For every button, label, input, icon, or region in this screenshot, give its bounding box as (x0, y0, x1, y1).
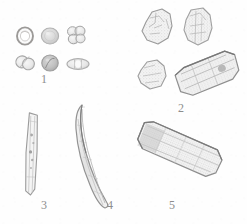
panel-2: 2 (128, 0, 247, 120)
panel-5: 5 (110, 110, 247, 224)
specimen-elliptical-grain (67, 59, 89, 70)
specimen-vertical-rod (25, 113, 39, 195)
panel-1-label: 1 (41, 72, 48, 87)
panel-1: 1 (0, 0, 105, 95)
specimen-angular-grain-upper-right (184, 8, 212, 45)
specimen-curved-spindle (76, 105, 108, 208)
specimen-angular-grain-upper-left (142, 9, 172, 44)
panel-3: 3 (6, 105, 70, 224)
panel-3-label: 3 (41, 198, 48, 213)
panel-5-specimens (110, 110, 247, 224)
specimen-dark-disc-grain (42, 55, 58, 71)
specimen-elongate-grain-lower-right (173, 48, 243, 99)
specimen-angular-grain-lower-left (138, 60, 166, 89)
specimen-diagonal-stippled-rod (134, 119, 225, 180)
specimen-tetrad-grain (68, 26, 86, 44)
specimen-ring-grain (17, 27, 33, 44)
panel-3-specimens (6, 105, 70, 224)
specimen-disc-grain (41, 28, 58, 44)
panel-2-specimens (128, 0, 247, 120)
micrograph-plate: 1 (0, 0, 247, 224)
panel-1-specimens (0, 0, 105, 95)
panel-5-label: 5 (169, 198, 176, 213)
specimen-dyad-grain (14, 53, 36, 73)
